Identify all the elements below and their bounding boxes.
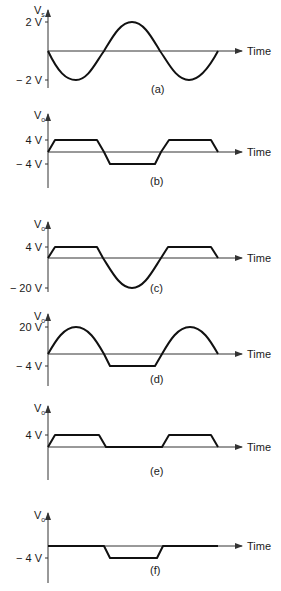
tick-label: − 4 V [16,158,43,170]
panel-f: Vo − 4 V Time (f) [16,509,271,583]
clipped-wave [48,247,218,288]
panel-d: Vo 20 V − 4 V Time (d) [16,310,271,386]
tick-label: 4 V [25,134,42,146]
tick-label: − 4 V [16,360,43,372]
svg-text:Vo: Vo [34,402,45,416]
tick-label: − 4 V [16,552,43,564]
svg-text:Time: Time [247,441,271,453]
tick-label: 20 V [19,321,42,333]
panel-caption: (d) [150,373,163,385]
tick-label: 4 V [25,241,42,253]
panel-a: Vs 2 V − 2 V Time (a) [16,4,271,95]
svg-text:Vo: Vo [34,109,45,123]
tick-label: 4 V [25,429,42,441]
waveform-figure: Vs 2 V − 2 V Time (a) Vo 4 V − 4 V Time … [0,0,281,591]
panel-e: Vo 4 V Time (e) [25,402,271,480]
svg-text:Time: Time [247,348,271,360]
tick-label: − 2 V [16,74,43,86]
clipped-wave [48,546,218,558]
panel-caption: (c) [150,282,163,294]
svg-text:Time: Time [247,146,271,158]
svg-text:Time: Time [247,252,271,264]
panel-caption: (a) [151,83,164,95]
panel-caption: (e) [150,465,163,477]
tick-label: 2 V [25,16,42,28]
svg-text:Vo: Vo [34,509,45,523]
panel-b: Vo 4 V − 4 V Time (b) [16,109,271,188]
svg-text:Vo: Vo [34,218,45,232]
panel-caption: (b) [150,175,163,187]
svg-text:Time: Time [247,540,271,552]
panel-c: Vo 4 V − 20 V Time (c) [10,218,271,294]
clipped-wave [48,435,218,447]
tick-label: − 20 V [10,282,43,294]
clipped-wave [48,327,218,366]
time-label: Time [247,45,271,57]
panel-caption: (f) [150,564,160,576]
